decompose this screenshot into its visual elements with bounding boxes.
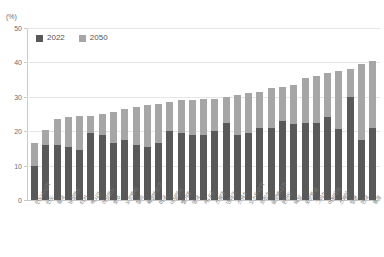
bar-column[interactable]: [108, 28, 119, 200]
bar-column[interactable]: [175, 28, 186, 200]
x-label-cell: 홍콩: [367, 201, 378, 257]
x-label-cell: 멕시코: [85, 201, 96, 257]
bar-column[interactable]: [119, 28, 130, 200]
bar-column[interactable]: [187, 28, 198, 200]
x-label-cell: 벨기에: [175, 201, 186, 257]
bar-column[interactable]: [243, 28, 254, 200]
bar-column[interactable]: [164, 28, 175, 200]
x-label-cell: 스위스: [232, 201, 243, 257]
bar-column[interactable]: [52, 28, 63, 200]
bar-column[interactable]: [198, 28, 209, 200]
bar-column[interactable]: [254, 28, 265, 200]
bar-segment-2050: [42, 130, 49, 145]
legend-item-2050[interactable]: 2050: [79, 34, 108, 42]
chart-legend: 2022 2050: [36, 34, 108, 42]
y-axis-unit-label: (%): [6, 13, 17, 20]
bar-stack: [324, 73, 331, 200]
bar-segment-2050: [358, 64, 365, 140]
bar-segment-2050: [347, 69, 354, 97]
bar-segment-2022: [245, 133, 252, 200]
x-label-cell: 포르투갈: [299, 201, 310, 257]
x-label-cell: 칠레: [130, 201, 141, 257]
bar-column[interactable]: [29, 28, 40, 200]
bar-segment-2022: [268, 128, 275, 200]
x-label-cell: 일본: [344, 201, 355, 257]
bar-stack: [166, 102, 173, 200]
bar-stack: [223, 97, 230, 200]
y-tick-label: 20: [14, 128, 22, 135]
bar-column[interactable]: [221, 28, 232, 200]
bar-stack: [99, 114, 106, 200]
bar-segment-2022: [87, 133, 94, 200]
bar-column[interactable]: [97, 28, 108, 200]
bar-segment-2050: [189, 100, 196, 134]
bar-segment-2050: [256, 92, 263, 128]
bar-column[interactable]: [367, 28, 378, 200]
x-label-cell: 덴마크: [221, 201, 232, 257]
legend-item-2022[interactable]: 2022: [36, 34, 65, 42]
bar-segment-2050: [31, 143, 38, 165]
bar-column[interactable]: [85, 28, 96, 200]
bar-column[interactable]: [288, 28, 299, 200]
bar-column[interactable]: [74, 28, 85, 200]
bar-segment-2050: [290, 85, 297, 125]
bar-segment-2050: [54, 119, 61, 145]
bar-segment-2022: [166, 131, 173, 200]
x-label-cell: 캐나다: [198, 201, 209, 257]
x-label-cell: 스웨덴: [209, 201, 220, 257]
bar-column[interactable]: [299, 28, 310, 200]
x-label-cell: 프랑스: [254, 201, 265, 257]
x-label-cell: 오스트리아: [243, 201, 254, 257]
x-label-cell: 룩셈부르크: [142, 201, 153, 257]
bar-segment-2050: [369, 61, 376, 128]
bar-segment-2022: [200, 135, 207, 200]
bar-segment-2022: [65, 147, 72, 200]
legend-swatch-2050-icon: [79, 35, 86, 42]
bar-column[interactable]: [322, 28, 333, 200]
bar-stack: [211, 99, 218, 200]
bar-stack: [290, 85, 297, 200]
bar-column[interactable]: [142, 28, 153, 200]
x-label-cell: 이탈리아: [322, 201, 333, 257]
bar-segment-2050: [313, 76, 320, 122]
bar-stack: [234, 95, 241, 200]
x-label-cell: 터키: [74, 201, 85, 257]
legend-swatch-2022-icon: [36, 35, 43, 42]
x-axis-labels-group: 인도네시아인도중국뉴질랜드터키멕시코아일랜드호주노르웨이칠레룩셈부르크미국네덜란…: [27, 201, 380, 257]
bar-column[interactable]: [209, 28, 220, 200]
x-label-cell: 독일: [288, 201, 299, 257]
bar-segment-2050: [245, 93, 252, 133]
bar-column[interactable]: [130, 28, 141, 200]
x-label-cell: 인도네시아: [29, 201, 40, 257]
bar-segment-2050: [87, 116, 94, 133]
bar-stack: [144, 105, 151, 200]
bar-stack: [358, 64, 365, 200]
bar-segment-2050: [279, 87, 286, 121]
x-label-cell: 영국: [187, 201, 198, 257]
x-label-cell: 아일랜드: [97, 201, 108, 257]
bar-column[interactable]: [333, 28, 344, 200]
y-tick-label: 10: [14, 162, 22, 169]
bar-column[interactable]: [40, 28, 51, 200]
bar-segment-2050: [155, 104, 162, 144]
bar-segment-2050: [110, 112, 117, 143]
bar-segment-2022: [302, 123, 309, 200]
bar-segment-2022: [99, 135, 106, 200]
x-label-cell: 그리스: [311, 201, 322, 257]
bar-column[interactable]: [63, 28, 74, 200]
bar-segment-2050: [223, 97, 230, 123]
bar-stack: [65, 117, 72, 200]
bar-segment-2022: [189, 135, 196, 200]
bar-segment-2050: [99, 114, 106, 135]
bar-column[interactable]: [277, 28, 288, 200]
plot-area: 01020304050: [27, 28, 380, 200]
x-label-cell: 스페인: [333, 201, 344, 257]
bar-column[interactable]: [356, 28, 367, 200]
bar-column[interactable]: [266, 28, 277, 200]
bar-column[interactable]: [311, 28, 322, 200]
bar-column[interactable]: [153, 28, 164, 200]
bar-stack: [335, 71, 342, 200]
y-tick-label: 40: [14, 59, 22, 66]
bar-column[interactable]: [344, 28, 355, 200]
bar-column[interactable]: [232, 28, 243, 200]
